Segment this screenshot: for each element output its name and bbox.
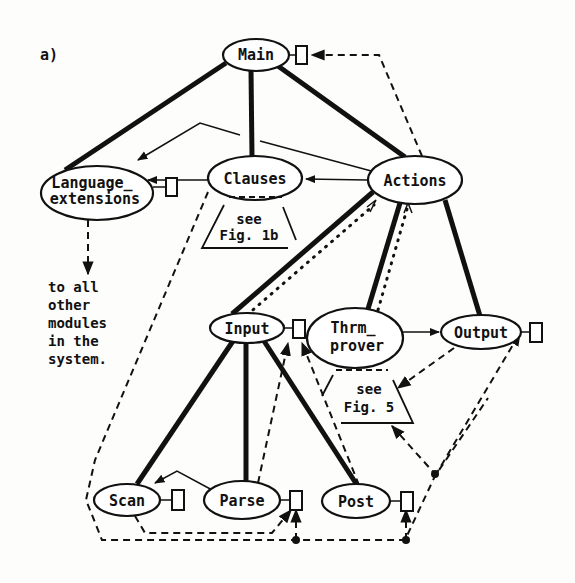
annotation-to-all-modules: to all other modules in the system. (48, 279, 107, 367)
thrm-prover-note-line1: see (356, 381, 381, 397)
annotation-line: to all (48, 279, 99, 295)
node-actions[interactable]: Actions (368, 156, 462, 204)
clauses-note-line2: Fig. 1b (219, 227, 278, 243)
clauses-see-fig-note: see Fig. 1b (202, 197, 296, 248)
clauses-note-line1: see (236, 211, 261, 227)
module-structure-diagram: a) (0, 0, 575, 583)
node-post-label: Post (338, 493, 374, 511)
node-scan-label: Scan (109, 492, 145, 510)
node-thrm-prover-line2: prover (330, 337, 384, 355)
scan-port-box (172, 490, 184, 510)
node-thrm-prover[interactable]: Thrm_ prover (307, 308, 403, 368)
parse-port-box (290, 491, 302, 510)
node-output-label: Output (454, 324, 508, 342)
node-input[interactable]: Input (210, 313, 305, 343)
node-post[interactable]: Post (322, 484, 413, 518)
node-input-label: Input (224, 320, 269, 338)
post-port-box (401, 492, 413, 511)
figure-label: a) (40, 46, 58, 64)
node-output[interactable]: Output (441, 315, 542, 349)
dotted-flow-edges (247, 200, 412, 315)
input-port-box (293, 320, 305, 338)
hierarchy-edges (65, 63, 480, 485)
node-parse-label: Parse (219, 492, 264, 510)
annotation-line: system. (48, 351, 107, 367)
node-actions-label: Actions (383, 172, 446, 190)
thrm-prover-note-line2: Fig. 5 (344, 399, 395, 415)
thrm-prover-see-fig-note: see Fig. 5 (322, 370, 413, 423)
language-extensions-port-box (166, 178, 177, 196)
node-language-extensions[interactable]: Language_ extensions (41, 166, 177, 220)
node-clauses[interactable]: Clauses (208, 156, 302, 200)
node-main-label: Main (238, 46, 274, 64)
node-clauses-label: Clauses (223, 170, 286, 188)
node-main[interactable]: Main (223, 39, 307, 71)
node-thrm-prover-line1: Thrm_ (330, 319, 376, 337)
annotation-line: other (48, 297, 90, 313)
output-port-box (530, 323, 542, 342)
annotation-line: in the (48, 333, 99, 349)
annotation-line: modules (48, 315, 107, 331)
node-scan[interactable]: Scan (94, 484, 184, 516)
node-language-extensions-line2: extensions (50, 190, 140, 208)
main-port-box (296, 46, 307, 64)
